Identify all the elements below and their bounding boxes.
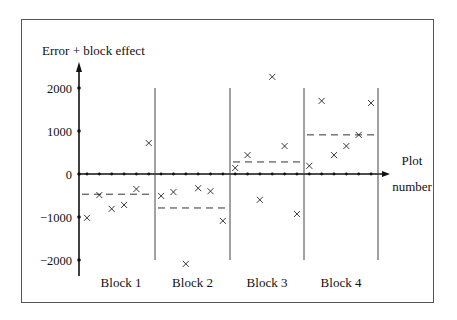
x-tick xyxy=(209,173,212,176)
y-tick xyxy=(77,129,81,133)
x-tick xyxy=(357,173,360,176)
x-tick xyxy=(283,173,286,176)
data-point-x-marker xyxy=(146,140,152,146)
x-tick xyxy=(98,173,101,176)
y-tick-label: 1000 xyxy=(47,125,72,139)
block-label: Block 3 xyxy=(247,275,288,290)
y-tick xyxy=(77,215,81,219)
y-axis-title: Error + block effect xyxy=(42,43,145,58)
data-point-x-marker xyxy=(121,202,127,208)
x-tick xyxy=(308,173,311,176)
data-point-x-marker xyxy=(343,143,349,149)
data-point-x-marker xyxy=(294,211,300,217)
x-tick xyxy=(221,173,224,176)
data-points xyxy=(84,74,374,267)
x-tick xyxy=(246,173,249,176)
data-point-x-marker xyxy=(319,98,325,104)
data-point-x-marker xyxy=(269,74,275,80)
data-point-x-marker xyxy=(170,189,176,195)
data-point-x-marker xyxy=(232,165,238,171)
block-label: Block 1 xyxy=(101,275,142,290)
axes: 200010000−1000−2000 xyxy=(40,62,390,276)
y-tick xyxy=(77,86,81,90)
data-point-x-marker xyxy=(195,185,201,191)
x-tick xyxy=(320,173,323,176)
data-point-x-marker xyxy=(331,152,337,158)
x-tick xyxy=(110,173,113,176)
data-point-x-marker xyxy=(368,100,374,106)
x-axis-arrow-icon xyxy=(382,171,390,177)
x-tick xyxy=(345,173,348,176)
data-point-x-marker xyxy=(183,261,189,267)
data-point-x-marker xyxy=(220,218,226,224)
data-point-x-marker xyxy=(133,186,139,192)
x-tick xyxy=(370,173,373,176)
block-label: Block 4 xyxy=(321,275,362,290)
y-tick xyxy=(77,172,81,176)
x-tick xyxy=(147,173,150,176)
x-tick xyxy=(234,173,237,176)
y-tick-label: −2000 xyxy=(40,254,72,268)
x-axis-title-line1: Plot xyxy=(402,153,423,168)
x-tick xyxy=(86,173,89,176)
data-point-x-marker xyxy=(109,206,115,212)
y-tick-label: 0 xyxy=(66,168,72,182)
x-tick xyxy=(197,173,200,176)
data-point-x-marker xyxy=(208,188,214,194)
data-point-x-marker xyxy=(84,215,90,221)
y-tick-label: −1000 xyxy=(40,211,72,225)
block-label: Block 2 xyxy=(172,275,213,290)
x-tick xyxy=(135,173,138,176)
data-point-x-marker xyxy=(245,152,251,158)
x-tick xyxy=(333,173,336,176)
x-tick xyxy=(296,173,299,176)
y-tick-label: 2000 xyxy=(47,82,72,96)
y-tick xyxy=(77,258,81,262)
data-point-x-marker xyxy=(282,143,288,149)
data-point-x-marker xyxy=(257,197,263,203)
x-tick xyxy=(259,173,262,176)
x-tick xyxy=(184,173,187,176)
scatter-chart: 200010000−1000−2000 Block 1Block 2Block … xyxy=(0,0,457,320)
data-point-x-marker xyxy=(306,163,312,169)
x-tick xyxy=(271,173,274,176)
data-point-x-marker xyxy=(158,193,164,199)
x-tick xyxy=(123,173,126,176)
x-tick xyxy=(172,173,175,176)
y-axis-arrow-icon xyxy=(76,62,82,72)
x-tick xyxy=(160,173,163,176)
block-means xyxy=(82,135,376,208)
data-point-x-marker xyxy=(96,192,102,198)
x-axis-title-line2: number xyxy=(392,179,432,194)
